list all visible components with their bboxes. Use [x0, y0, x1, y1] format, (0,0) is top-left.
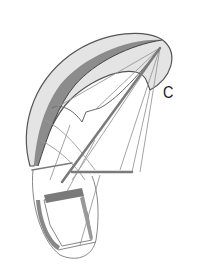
- paraglider-illustration: [0, 0, 199, 274]
- harness: [32, 170, 98, 258]
- canopy: [26, 33, 171, 166]
- figure-label: C: [163, 84, 173, 101]
